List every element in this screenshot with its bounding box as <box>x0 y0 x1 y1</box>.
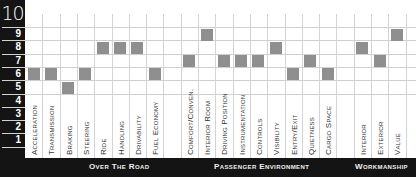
y-tick-label: 4 <box>0 95 25 106</box>
category-label: Cargo Space <box>321 67 335 155</box>
category-label-text: Acceleration <box>30 105 39 155</box>
section-over-the-road: Over The Road <box>89 162 150 171</box>
rating-marker <box>218 55 230 67</box>
rating-marker <box>97 42 109 54</box>
grid-line-vertical <box>267 14 268 158</box>
y-tick-label: 1 <box>0 134 25 145</box>
category-label: Fuel Economy <box>148 67 162 155</box>
category-label: Transmission <box>44 67 58 155</box>
category-label: Driving Position <box>217 67 231 155</box>
category-label-text: Ride <box>99 138 108 155</box>
category-label-text: Interior <box>359 124 368 155</box>
rating-marker <box>374 55 386 67</box>
section-bar: Over The Road Passenger Environment Work… <box>0 158 416 177</box>
y-axis-max-label: 10 <box>0 2 25 24</box>
grid-line-vertical <box>163 14 164 158</box>
category-label: Interior Room <box>200 67 214 155</box>
row-separator <box>2 147 25 148</box>
grid-line-vertical <box>215 14 216 158</box>
rating-grid: AccelerationTransmissionBrakingSteeringR… <box>25 0 416 158</box>
section-passenger-environment: Passenger Environment <box>214 162 309 171</box>
category-label-text: Interior Room <box>203 101 212 155</box>
y-tick-label: 7 <box>0 55 25 66</box>
rating-marker <box>391 29 403 41</box>
y-tick-label: 3 <box>0 108 25 119</box>
y-tick-label: 8 <box>0 41 25 52</box>
category-label-text: Cargo Space <box>324 106 333 155</box>
category-label: Interior <box>356 67 370 155</box>
category-label: Ride <box>96 67 110 155</box>
category-label-text: Exterior <box>376 121 385 155</box>
category-label-text: Fuel Economy <box>151 101 160 155</box>
grid-line-vertical <box>198 14 199 158</box>
rating-marker <box>235 55 247 67</box>
category-label-text: Controls <box>255 119 264 155</box>
category-label-text: Transmission <box>47 106 56 155</box>
rating-marker <box>183 55 195 67</box>
category-label: Acceleration <box>27 67 41 155</box>
grid-line-vertical <box>371 14 372 158</box>
rating-marker <box>201 29 213 41</box>
category-label-text: Instrumentation <box>238 95 247 155</box>
category-label-text: Quietness <box>307 117 316 155</box>
grid-line-vertical <box>388 14 389 158</box>
rating-marker <box>252 55 264 67</box>
category-label-text: Drivability <box>134 115 143 155</box>
grid-line-vertical <box>94 14 95 158</box>
category-label-text: Entry/Exit <box>290 115 299 155</box>
category-label: Entry/Exit <box>287 67 301 155</box>
grid-line-vertical <box>146 14 147 158</box>
category-label: Braking <box>62 67 76 155</box>
category-label: Controls <box>252 67 266 155</box>
rating-marker <box>356 42 368 54</box>
rating-marker <box>270 42 282 54</box>
grid-line-vertical <box>319 14 320 158</box>
grid-line-vertical <box>77 14 78 158</box>
category-label: Handling <box>114 67 128 155</box>
category-label: Value <box>390 67 404 155</box>
y-tick-label: 5 <box>0 81 25 92</box>
category-label: Steering <box>79 67 93 155</box>
category-label-text: Driving Position <box>220 93 229 155</box>
rating-marker <box>304 55 316 67</box>
grid-line-vertical <box>42 14 43 158</box>
category-label-text: Braking <box>65 125 74 155</box>
y-tick-label: 9 <box>0 28 25 39</box>
category-label: Quietness <box>304 67 318 155</box>
y-axis: 10 987654321 <box>0 0 25 158</box>
category-label-text: Visibility <box>272 122 281 155</box>
category-label: Exterior <box>373 67 387 155</box>
rating-marker <box>131 42 143 54</box>
section-workmanship: Workmanship <box>355 162 408 171</box>
category-label: Drivability <box>131 67 145 155</box>
category-label-text: Comfort/Conven. <box>186 89 195 155</box>
category-label: Instrumentation <box>235 67 249 155</box>
y-tick-label: 2 <box>0 121 25 132</box>
rating-marker <box>114 42 126 54</box>
category-label: Visibility <box>269 67 283 155</box>
grid-line-horizontal <box>25 27 416 28</box>
grid-line-vertical <box>250 14 251 158</box>
category-label-text: Steering <box>82 121 91 155</box>
category-label-text: Handling <box>117 121 126 155</box>
grid-line-vertical <box>406 14 407 158</box>
category-label: Comfort/Conven. <box>183 67 197 155</box>
category-label-text: Value <box>393 133 402 155</box>
grid-line-vertical <box>336 14 337 158</box>
y-tick-label: 6 <box>0 68 25 79</box>
